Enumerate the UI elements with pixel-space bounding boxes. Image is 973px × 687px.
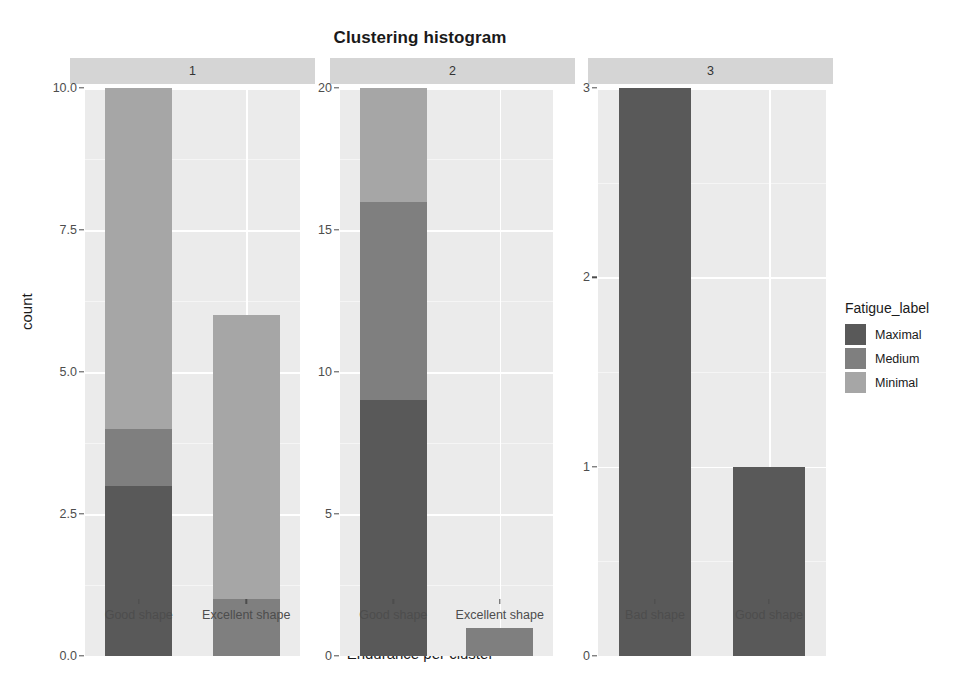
bar[interactable]	[619, 88, 690, 656]
legend-item-list: MaximalMediumMinimal	[845, 323, 970, 394]
y-axis-tick-label: 10	[288, 365, 332, 379]
y-axis-tick-label: 5.0	[33, 365, 77, 379]
y-axis-tick-mark	[79, 513, 84, 514]
y-axis-tick-label: 0	[546, 649, 590, 663]
y-axis-tick-mark	[334, 513, 339, 514]
y-axis-tick-mark	[592, 87, 597, 88]
y-axis-tick-mark	[334, 371, 339, 372]
x-axis-tick-mark	[499, 599, 500, 604]
bar-segment-minimal[interactable]	[213, 315, 280, 599]
bar[interactable]	[105, 88, 172, 656]
y-axis-tick-label: 20	[288, 81, 332, 95]
chart-canvas: Clustering histogram count Endurance per…	[0, 0, 973, 687]
y-axis-tick-mark	[592, 655, 597, 656]
bar-segment-medium[interactable]	[360, 202, 427, 401]
facet-strip-1: 1	[70, 58, 315, 84]
facet-strip-2: 2	[330, 58, 575, 84]
bar-segment-maximal[interactable]	[105, 486, 172, 656]
y-axis-tick-label: 7.5	[33, 223, 77, 237]
bar-segment-medium[interactable]	[105, 429, 172, 486]
x-axis-tick-mark	[138, 599, 139, 604]
bar[interactable]	[213, 315, 280, 656]
bar[interactable]	[466, 628, 533, 656]
facet-strip-3: 3	[588, 58, 833, 84]
legend-swatch	[845, 324, 866, 345]
facet-strip-label: 1	[70, 58, 315, 84]
y-axis-tick-label: 0.0	[33, 649, 77, 663]
legend-item[interactable]: Minimal	[845, 371, 970, 394]
bar-segment-minimal[interactable]	[105, 88, 172, 429]
y-axis-tick-label: 15	[288, 223, 332, 237]
y-axis-tick-mark	[592, 466, 597, 467]
y-axis-tick-mark	[334, 655, 339, 656]
plot-area-3	[598, 88, 826, 656]
y-axis-tick-label: 0	[288, 649, 332, 663]
y-axis-tick-mark	[79, 229, 84, 230]
facet-strip-label: 3	[588, 58, 833, 84]
legend-label: Medium	[875, 352, 919, 366]
chart-title: Clustering histogram	[0, 28, 840, 48]
y-axis-tick-mark	[79, 371, 84, 372]
x-axis-tick-label: Excellent shape	[202, 608, 290, 622]
bar-segment-maximal[interactable]	[619, 88, 690, 656]
y-axis-tick-label: 2.5	[33, 507, 77, 521]
legend-title: Fatigue_label	[845, 300, 970, 316]
legend-swatch	[845, 348, 866, 369]
plot-area-2	[340, 88, 553, 656]
y-axis-tick-mark	[79, 87, 84, 88]
legend-label: Maximal	[875, 328, 922, 342]
x-axis-tick-label: Excellent shape	[456, 608, 544, 622]
legend-item[interactable]: Medium	[845, 347, 970, 370]
y-axis-tick-label: 2	[546, 270, 590, 284]
y-axis-title: count	[18, 293, 35, 330]
y-axis-tick-mark	[334, 229, 339, 230]
y-axis-tick-label: 3	[546, 81, 590, 95]
x-axis-tick-label: Good shape	[735, 608, 803, 622]
bar[interactable]	[733, 467, 804, 656]
legend-swatch	[845, 372, 866, 393]
y-axis-tick-mark	[79, 655, 84, 656]
bar-segment-maximal[interactable]	[733, 467, 804, 656]
y-axis-tick-mark	[592, 277, 597, 278]
x-axis-tick-mark	[768, 599, 769, 604]
x-axis-tick-mark	[246, 599, 247, 604]
plot-area-1	[85, 88, 300, 656]
y-axis-tick-mark	[334, 87, 339, 88]
x-axis-tick-label: Bad shape	[625, 608, 685, 622]
legend-label: Minimal	[875, 376, 918, 390]
x-axis-tick-mark	[654, 599, 655, 604]
x-axis-tick-label: Good shape	[359, 608, 427, 622]
bar[interactable]	[360, 88, 427, 656]
legend-item[interactable]: Maximal	[845, 323, 970, 346]
gridline-vertical	[500, 88, 502, 656]
y-axis-tick-label: 1	[546, 460, 590, 474]
bar-segment-medium[interactable]	[466, 628, 533, 656]
y-axis-tick-label: 10.0	[33, 81, 77, 95]
bar-segment-minimal[interactable]	[360, 88, 427, 202]
x-axis-tick-label: Good shape	[105, 608, 173, 622]
y-axis-tick-label: 5	[288, 507, 332, 521]
facet-strip-label: 2	[330, 58, 575, 84]
legend: Fatigue_label MaximalMediumMinimal	[845, 300, 970, 395]
x-axis-tick-mark	[393, 599, 394, 604]
